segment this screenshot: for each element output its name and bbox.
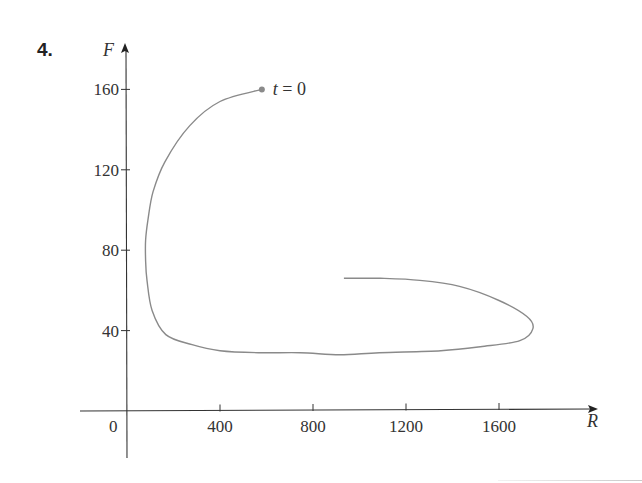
- annotations: t = 0: [259, 79, 306, 99]
- x-tick-label: 0: [109, 417, 118, 436]
- x-tick-label: 800: [300, 417, 326, 436]
- start-point-dot: [259, 86, 265, 92]
- y-tick-label: 40: [102, 322, 119, 341]
- y-axis-arrow-icon: [121, 43, 129, 53]
- y-axis: [126, 49, 127, 458]
- page-rule: [498, 480, 642, 481]
- y-tick-label: 120: [94, 161, 120, 180]
- x-tick-label: 400: [207, 417, 233, 436]
- trajectory-line: [145, 89, 533, 354]
- x-axis: [80, 409, 592, 411]
- y-axis-label: F: [102, 40, 115, 60]
- phase-plot: RF 0400800120016004080120160 t = 0: [0, 0, 642, 483]
- y-tick-label: 160: [94, 80, 120, 99]
- x-tick-label: 1600: [482, 417, 516, 436]
- trajectory-curves: [145, 89, 533, 354]
- x-tick-label: 1200: [389, 417, 423, 436]
- tick-marks: 0400800120016004080120160: [94, 80, 517, 436]
- start-point-label: t = 0: [273, 79, 306, 99]
- axes: RF: [80, 40, 598, 458]
- x-axis-label: R: [586, 411, 598, 431]
- y-tick-label: 80: [102, 241, 119, 260]
